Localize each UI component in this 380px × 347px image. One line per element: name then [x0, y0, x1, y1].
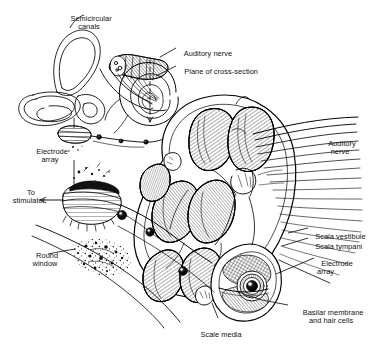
label-auditory-nerve-right: Auditory nerve	[314, 131, 366, 157]
label-scale-media: Scale media	[188, 322, 250, 339]
label-basilar-membrane-and-hair-cells: Basilar membrane and hair cells	[286, 300, 376, 326]
label-scala-tympani: Scala tympani	[311, 234, 362, 251]
figure-canvas: Semicircular canals Auditory nerve Plane…	[0, 0, 380, 347]
label-electrode-array-right: Electrode array	[317, 251, 353, 277]
label-electrode-array-left: Electrode array	[22, 139, 78, 165]
label-auditory-nerve-inset: Auditory nerve	[180, 41, 232, 58]
label-to-stimulator: To stimulator	[2, 180, 56, 206]
label-plane-of-cross-section: Plane of cross-section	[180, 59, 258, 76]
label-round-window: Round window	[18, 243, 72, 269]
label-semicircular-canals: Semicircular canals	[58, 6, 120, 32]
